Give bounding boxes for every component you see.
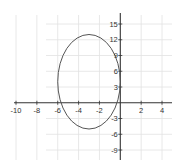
x-tick-label: -10 [11, 106, 22, 115]
y-tick-label: 3 [114, 83, 118, 92]
y-tick-label: 9 [114, 51, 118, 60]
y-tick-label: 12 [109, 35, 117, 44]
y-tick-label: 15 [109, 20, 117, 29]
y-tick-label: 6 [114, 67, 118, 76]
x-tick-label: -8 [34, 106, 41, 115]
x-tick-label: -6 [54, 106, 61, 115]
x-tick-label: -2 [96, 106, 103, 115]
x-tick-label: 2 [139, 106, 143, 115]
x-tick-label: 4 [160, 106, 164, 115]
x-tick-label: -4 [75, 106, 82, 115]
ellipse-chart: -10-8-6-4-2241512963-3-6-9 [0, 0, 182, 165]
y-tick-label: -3 [111, 114, 118, 123]
y-tick-label: -6 [111, 130, 118, 139]
y-tick-label: -9 [111, 146, 118, 155]
grid-lines [16, 15, 172, 160]
